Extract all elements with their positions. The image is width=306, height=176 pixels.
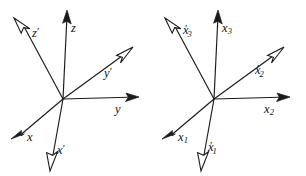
axis-x-prime-arrowhead [47, 152, 58, 171]
axis-x3-prime-arrowhead [165, 18, 181, 33]
prime-mark: ′ [37, 25, 39, 37]
axis-label-x: x [27, 131, 33, 144]
axes-drawing [0, 0, 306, 176]
axis-x2-prime [214, 47, 284, 99]
axis-x2-prime-arrowhead [268, 47, 284, 63]
axis-y [63, 93, 139, 102]
axis-y-prime-arrowhead [117, 47, 133, 63]
axis-x-arrowhead [11, 130, 24, 139]
axis-label-z: z [71, 22, 76, 35]
axis-label-x1: x1 [178, 131, 188, 145]
axis-label-x-prime-base: x [57, 143, 63, 157]
prime-mark: ′ [63, 142, 65, 154]
axis-z [63, 10, 72, 99]
axis-label-x3-subscript: 3 [228, 26, 232, 36]
axis-label-x3-base: x [222, 21, 228, 35]
axis-label-x2-base: x [264, 102, 270, 116]
axis-label-x1-base: x [178, 130, 184, 144]
axis-y-prime [63, 47, 133, 99]
axis-x2 [214, 93, 290, 102]
axis-x3 [214, 10, 223, 99]
axis-x [11, 99, 63, 139]
axis-label-x1-prime: x′1 [208, 140, 217, 155]
axis-label-x1-prime-subscript: 1 [213, 146, 217, 156]
axis-x1-prime [198, 99, 214, 171]
axis-x2-prime-line [214, 56, 273, 99]
axis-label-z-prime: z′ [32, 26, 39, 40]
prime-mark: ′ [110, 65, 112, 77]
axis-label-y: y [115, 103, 121, 116]
axis-x-prime [47, 99, 63, 171]
axis-label-x3: x3 [222, 22, 232, 36]
axis-label-y-prime-base: y [104, 66, 110, 80]
axis-x3-prime-line [175, 27, 214, 100]
axis-label-z-base: z [71, 21, 76, 35]
axis-label-x1-subscript: 1 [184, 135, 188, 145]
axis-y-prime-line [63, 56, 122, 99]
axis-y-line [63, 97, 128, 99]
axis-x2-line [214, 97, 279, 99]
axis-x1-arrowhead [162, 130, 175, 139]
axis-label-x-base: x [27, 130, 33, 144]
axis-label-y-base: y [115, 102, 121, 116]
axis-label-x2: x2 [264, 103, 274, 117]
axis-label-x-prime: x′ [57, 143, 65, 157]
axis-label-x2-prime-subscript: 2 [260, 69, 264, 79]
axis-z-prime-arrowhead [14, 18, 30, 33]
axis-x1-prime-arrowhead [198, 152, 209, 171]
axis-x3-line [214, 20, 218, 99]
axis-label-x3-prime-subscript: 3 [188, 29, 192, 39]
axis-label-x3-prime: x′3 [183, 23, 192, 38]
axis-label-y-prime: y′ [104, 66, 112, 80]
axis-x1 [162, 99, 214, 139]
coordinate-frames-figure: z y x z′ y′ x′ x3 x2 x1 x′3 x′2 x′1 [0, 0, 306, 176]
axis-z-line [63, 20, 67, 99]
axis-z-prime-line [24, 27, 63, 100]
axis-label-x2-prime: x′2 [255, 63, 264, 78]
axis-label-x2-subscript: 2 [270, 107, 274, 117]
